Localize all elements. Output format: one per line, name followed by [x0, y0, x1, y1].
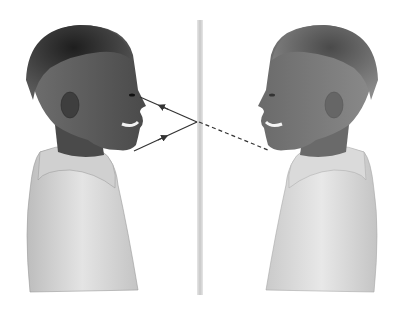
illustration-canvas: [0, 0, 404, 311]
mirror-reflection-illustration: [0, 0, 404, 311]
boy-real-eye: [129, 94, 135, 97]
boy-reflection-ear: [325, 92, 343, 118]
boy-real: [26, 25, 146, 292]
mirror: [197, 20, 203, 295]
boy-reflection-eye: [269, 94, 275, 97]
virtual-ray-dashed: [199, 122, 268, 150]
boy-reflection: [258, 25, 378, 292]
boy-real-ear: [61, 92, 79, 118]
reflected-ray: [140, 97, 197, 122]
incident-ray: [134, 122, 197, 151]
incident-ray-arrow: [158, 137, 165, 140]
reflected-ray-arrow: [161, 106, 168, 109]
